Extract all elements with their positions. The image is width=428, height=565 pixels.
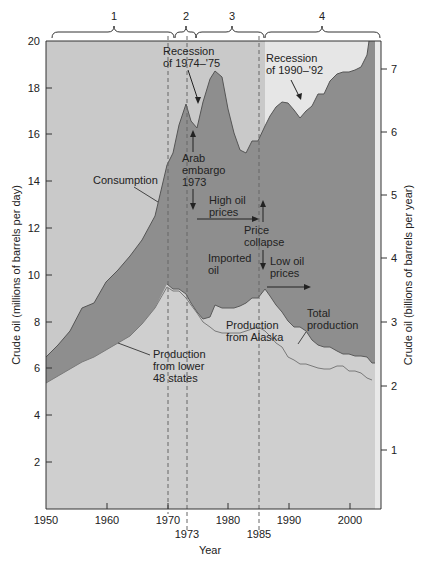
svg-text:prices: prices [209,206,239,218]
svg-text:collapse: collapse [244,236,284,248]
svg-text:2000: 2000 [338,514,362,526]
svg-text:20: 20 [28,35,40,47]
svg-text:1973: 1973 [182,176,206,188]
svg-text:4: 4 [34,409,40,421]
svg-text:embargo: embargo [182,164,225,176]
svg-text:16: 16 [28,128,40,140]
svg-text:5: 5 [391,189,397,201]
y-left-ticks: 2 4 6 8 10 12 14 16 18 20 [28,35,40,468]
svg-text:Production: Production [153,348,206,360]
svg-text:1: 1 [391,444,397,456]
svg-text:7: 7 [391,63,397,75]
x-ticks: 1950 1960 1970 1980 1990 2000 1973 1985 [34,514,362,540]
svg-text:oil: oil [208,264,219,276]
svg-text:6: 6 [34,362,40,374]
svg-text:12: 12 [28,222,40,234]
svg-text:from lower: from lower [153,360,205,372]
svg-text:Low oil: Low oil [270,255,304,267]
svg-text:Recession: Recession [266,52,317,64]
svg-text:1990: 1990 [277,514,301,526]
svg-text:Arab: Arab [182,152,205,164]
svg-text:6: 6 [391,126,397,138]
svg-text:Recession: Recession [163,45,214,57]
svg-text:1985: 1985 [247,528,271,540]
svg-text:of 1990–'92: of 1990–'92 [266,64,323,76]
svg-text:4: 4 [391,252,397,264]
svg-text:Production: Production [226,319,279,331]
svg-text:Price: Price [244,224,269,236]
y-right-axis-title: Crude oil (billions of barrels per year) [402,185,414,365]
y-right-ticks: 1 2 3 4 5 6 7 [391,63,397,456]
y-left-axis-title: Crude oil (millions of barrels per day) [10,185,22,365]
svg-text:2: 2 [34,456,40,468]
period-4-label: 4 [319,10,325,22]
svg-text:of 1974–'75: of 1974–'75 [163,57,220,69]
svg-text:10: 10 [28,269,40,281]
svg-text:Total: Total [307,307,330,319]
svg-text:High oil: High oil [209,194,246,206]
svg-text:1950: 1950 [34,514,58,526]
svg-text:prices: prices [270,267,300,279]
svg-text:Consumption: Consumption [93,174,158,186]
svg-text:from Alaska: from Alaska [226,331,284,343]
svg-text:Imported: Imported [208,252,251,264]
svg-text:48 states: 48 states [153,372,198,384]
svg-text:8: 8 [34,316,40,328]
period-2-label: 2 [183,10,189,22]
svg-text:1980: 1980 [216,514,240,526]
svg-text:14: 14 [28,175,40,187]
period-1-label: 1 [111,10,117,22]
svg-text:18: 18 [28,82,40,94]
oil-chart: 1 2 3 4 2 4 6 8 10 12 14 16 18 20 1 2 3 … [0,0,428,565]
svg-text:1973: 1973 [175,528,199,540]
svg-text:1970: 1970 [156,514,180,526]
svg-text:production: production [307,319,358,331]
period-3-label: 3 [229,10,235,22]
x-axis-title: Year [199,544,222,556]
svg-text:2: 2 [391,380,397,392]
svg-text:3: 3 [391,316,397,328]
svg-text:1960: 1960 [95,514,119,526]
period-braces [52,26,380,38]
